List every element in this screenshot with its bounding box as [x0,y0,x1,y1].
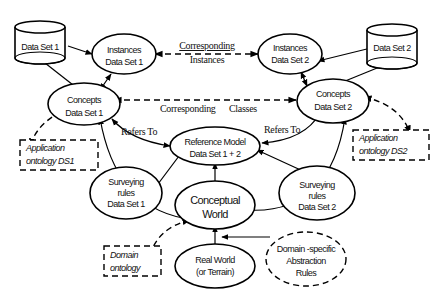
domain-ontology-line2: ontology [110,263,141,273]
ontology-diagram: Data Set 1 Data Set 2 Instances Data Set… [0,0,437,296]
node-domain-ontology: Domain ontology [104,246,161,276]
domain-rules-line1: Domain -specific [277,244,337,254]
node-app-ontology1: Application ontology DS1 [20,140,98,170]
conceptual-world-line2: World [202,208,228,220]
instances1-line1: Instances [107,45,142,55]
surveying2-line1: Surveying [299,180,335,190]
surveying1-line2: rules [117,188,135,198]
domain-rules-line2: Abstraction [286,256,326,266]
concepts2-line2: Data Set 2 [314,102,352,112]
app-ontology1-line2: ontology DS1 [26,156,75,166]
refers-to-right-label: Refers To [264,124,300,135]
node-conceptual-world: Conceptual World [175,181,255,229]
app-ontology1-line1: Application [25,143,65,153]
concepts2-line1: Concepts [316,89,351,99]
node-concepts2: Concepts Data Set 2 [297,79,369,123]
node-instances1: Instances Data Set 1 [92,34,156,74]
conceptual-world-line1: Conceptual [190,194,240,206]
instances2-line1: Instances [273,43,308,53]
real-world-line1: Real World [195,255,235,265]
node-concepts1: Concepts Data Set 1 [48,83,120,125]
surveying2-line2: rules [308,191,326,201]
corresponding-instances-label-1: Corresponding [179,40,235,51]
node-surveying1: Surveying rules Data Set 1 [90,167,162,219]
dataset2-label: Data Set 2 [373,43,411,53]
corresponding-classes-label-1: Corresponding [160,103,216,114]
node-domain-rules: Domain -specific Abstraction Rules [266,232,346,286]
corresponding-instances-label-2: Instances [190,54,225,65]
node-real-world: Real World (or Terrain) [175,244,255,288]
node-instances2: Instances Data Set 2 [258,34,322,74]
domain-ontology-line1: Domain [110,250,139,260]
reference-model-line1: Reference Model [184,137,246,147]
surveying1-line1: Surveying [108,177,144,187]
app-ontology2-line1: Application [358,133,398,143]
node-dataset2: Data Set 2 [367,24,417,69]
instances2-line2: Data Set 2 [271,55,309,65]
reference-model-line2: Data Set 1 + 2 [190,149,241,159]
node-dataset1: Data Set 1 [15,21,65,64]
real-world-line2: (or Terrain) [196,267,234,277]
edge-dataset1-instances1 [68,46,92,54]
edge-surveying2-reference [257,150,305,172]
surveying2-line3: Data Set 2 [298,202,336,212]
app-ontology2-line2: ontology DS2 [359,146,408,156]
node-reference-model: Reference Model Data Set 1 + 2 [170,127,260,165]
node-surveying2: Surveying rules Data Set 2 [279,166,355,220]
domain-rules-line3: Rules [296,268,318,278]
surveying1-line3: Data Set 1 [107,199,145,209]
edge-concepts2-app-ontology2 [364,97,410,133]
concepts1-line2: Data Set 1 [65,108,103,118]
corresponding-classes-label-2: Classes [229,103,257,114]
edge-instances2-concepts2 [301,72,307,86]
node-app-ontology2: Application ontology DS2 [353,130,429,160]
instances1-line2: Data Set 1 [105,57,143,67]
concepts1-line1: Concepts [67,95,102,105]
refers-to-left-label: Refers To [121,126,157,137]
dataset1-label: Data Set 1 [21,42,59,52]
